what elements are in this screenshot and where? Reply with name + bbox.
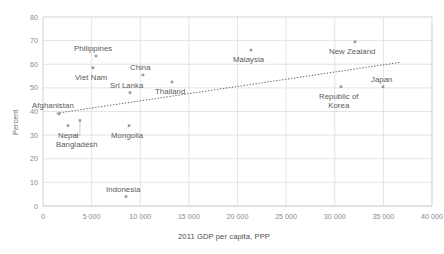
point-label: Sri Lanka (110, 81, 143, 90)
data-point-marker (171, 81, 174, 84)
point-label: Malaysia (233, 55, 264, 64)
x-axis-tick-label: 25 000 (264, 212, 308, 221)
x-axis-tick-label: 35 000 (361, 212, 405, 221)
data-point-marker (250, 49, 253, 52)
x-axis-title: 2011 GDP per capita, PPP (178, 232, 270, 241)
point-label: Nepal (58, 131, 79, 140)
x-axis-tick-label: 0 (21, 212, 65, 221)
scatter-chart: 0102030405060708005 00010 00015 00020 00… (0, 0, 444, 254)
y-axis-tick-label: 80 (18, 13, 38, 22)
point-label: Viet Nam (75, 73, 107, 82)
y-axis-tick-label: 50 (18, 83, 38, 92)
x-axis-tick-label: 30 000 (313, 212, 357, 221)
data-point-marker (67, 124, 70, 127)
x-axis-tick-label: 15 000 (167, 212, 211, 221)
y-axis-tick-label: 30 (18, 131, 38, 140)
data-point-marker (95, 55, 98, 58)
data-point-marker (340, 85, 343, 88)
point-label: Philippines (74, 44, 112, 53)
point-label: Japan (371, 75, 393, 84)
point-label: Mongolia (111, 131, 143, 140)
x-axis-tick-label: 40 000 (410, 212, 444, 221)
y-axis-tick-label: 20 (18, 154, 38, 163)
y-axis-tick-label: 10 (18, 178, 38, 187)
data-point-marker (382, 85, 385, 88)
data-point-marker (142, 74, 145, 77)
y-axis-tick-label: 70 (18, 36, 38, 45)
data-point-marker (128, 124, 131, 127)
point-label: Indonesia (106, 185, 140, 194)
data-point-marker (125, 195, 128, 198)
y-axis-tick-label: 60 (18, 60, 38, 69)
y-axis-tick-label: 0 (18, 202, 38, 211)
point-label: Afghanistan (32, 101, 74, 110)
point-label: Bangladesh (56, 140, 98, 149)
data-point-marker (79, 119, 82, 122)
data-point-marker (92, 66, 95, 69)
point-label: Thailand (155, 87, 185, 96)
x-axis-tick-label: 10 000 (118, 212, 162, 221)
data-point-marker (354, 41, 357, 44)
x-axis-tick-label: 5 000 (70, 212, 114, 221)
point-label: Republic ofKorea (319, 92, 359, 111)
point-label: China (130, 63, 151, 72)
data-point-marker (58, 113, 61, 116)
point-label: New Zealand (329, 47, 376, 56)
x-axis-tick-label: 20 000 (216, 212, 260, 221)
data-point-marker (129, 91, 132, 94)
y-axis-title: Percent (11, 110, 20, 135)
